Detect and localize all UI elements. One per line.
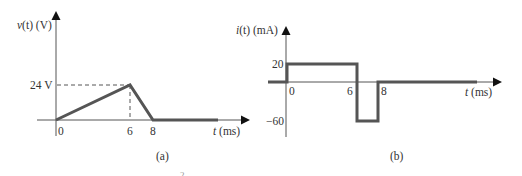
plot-a-xtick-6: 6 (127, 125, 133, 137)
plot-a-xlabel: t (ms) (213, 125, 240, 138)
plot-b-y-arrow-icon (282, 26, 291, 35)
plot-a-ylabel: v(t) (V) (17, 19, 52, 32)
plot-b-ytick-20: 20 (272, 58, 284, 70)
plot-a-x-arrow-icon (241, 116, 250, 125)
plot-a-waveform (56, 85, 218, 120)
plot-a: v(t) (V) 24 V 0 6 8 t (ms) (a) (17, 11, 250, 163)
plot-b-xtick-6: 6 (347, 85, 353, 97)
plot-a-xtick-0: 0 (58, 125, 64, 137)
plot-b-x-arrow-icon (493, 78, 502, 87)
plot-a-y-arrow-icon (52, 11, 61, 20)
plot-a-caption: (a) (156, 150, 169, 163)
plot-b-waveform (268, 64, 477, 121)
figure: v(t) (V) 24 V 0 6 8 t (ms) (a) i(t) (mA)… (0, 0, 522, 176)
footer-mark: 2 (180, 170, 185, 176)
plot-b: i(t) (mA) 20 −60 0 6 8 t (ms) (b) (236, 24, 502, 163)
plot-b-xlabel: t (ms) (465, 86, 492, 99)
plot-b-xtick-0: 0 (289, 85, 295, 97)
plot-b-xtick-8: 8 (381, 85, 387, 97)
plot-a-xtick-8: 8 (150, 125, 156, 137)
plot-b-caption: (b) (390, 150, 404, 163)
plot-a-ytick-24: 24 V (30, 79, 53, 91)
plot-b-ytick-minus-60: −60 (266, 115, 284, 127)
plot-b-ylabel: i(t) (mA) (236, 24, 278, 37)
